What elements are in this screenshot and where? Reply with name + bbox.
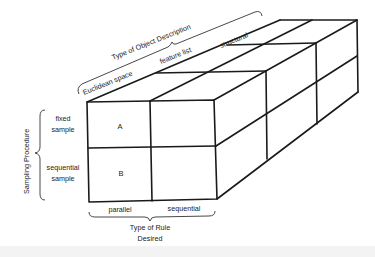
right-face — [216, 20, 358, 199]
front-face — [87, 100, 217, 202]
vertical-category-sequential-line1: sequential — [47, 163, 80, 172]
vertical-category-fixed-line2: sample — [51, 125, 74, 134]
vertical-category-fixed-line1: fixed — [55, 114, 70, 123]
vertical-category-sequential-line2: sample — [51, 174, 74, 183]
horizontal-category-sequential: sequential — [168, 204, 201, 213]
cell-label-b: B — [118, 169, 123, 178]
cube-diagram: A B Euclidean space feature list structu… — [0, 0, 375, 257]
cell-label-a: A — [117, 122, 122, 131]
depth-category-feature-list: feature list — [158, 45, 192, 66]
horizontal-category-parallel: parallel — [108, 205, 132, 214]
vertical-axis-title: Sampling Procedure — [22, 129, 31, 194]
front-vertical-divider — [150, 101, 152, 201]
depth-category-structural: structural — [218, 30, 249, 50]
vertical-brace — [35, 110, 45, 200]
horizontal-axis-title-line1: Type of Rule — [130, 223, 170, 232]
front-horizontal-divider — [88, 146, 216, 148]
horizontal-axis-title-line2: Desired — [138, 234, 163, 243]
